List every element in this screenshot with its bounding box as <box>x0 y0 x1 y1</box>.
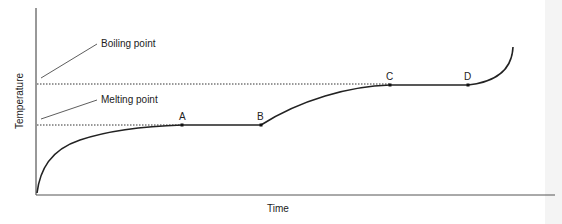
point-d-marker <box>467 84 470 87</box>
point-a-label: A <box>179 111 186 122</box>
heating-curve-diagram: Boiling point Melting point A B C D Time… <box>0 0 562 224</box>
point-b-marker <box>260 124 263 127</box>
heating-curve <box>37 47 513 193</box>
melting-point-label: Melting point <box>101 94 158 105</box>
boiling-point-label: Boiling point <box>101 38 156 49</box>
y-axis-label: Temperature <box>14 72 25 129</box>
melting-leader <box>41 100 97 119</box>
x-axis-label: Time <box>267 203 289 214</box>
point-b-label: B <box>257 111 264 122</box>
point-d-label: D <box>464 71 471 82</box>
point-a-marker <box>181 124 184 127</box>
diagram-canvas: Boiling point Melting point A B C D Time… <box>0 0 562 224</box>
point-c-label: C <box>386 71 393 82</box>
point-c-marker <box>389 84 392 87</box>
boiling-leader <box>41 44 97 78</box>
